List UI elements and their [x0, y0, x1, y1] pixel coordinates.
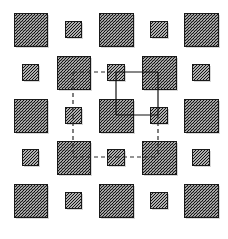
- edges-layer: [0, 0, 228, 239]
- diagram-canvas: [0, 0, 228, 239]
